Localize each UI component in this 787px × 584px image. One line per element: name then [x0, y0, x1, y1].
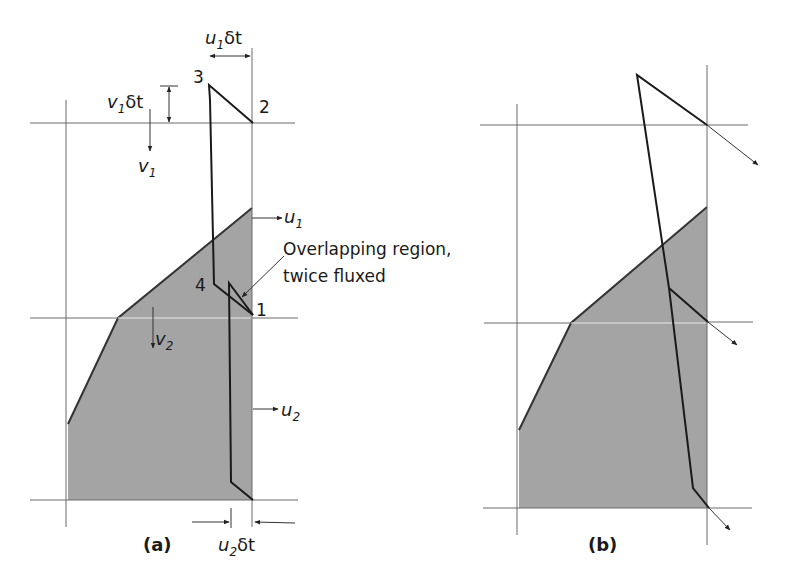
velocity-arrow-mid-b: [708, 322, 737, 345]
u2dt-label: u2δt: [218, 534, 255, 559]
u1-label: u1: [284, 206, 303, 231]
velocity-arrow-top-b: [707, 125, 758, 165]
velocity-arrow-bottom-b: [709, 508, 730, 530]
figure-canvas: 3 2 4 1 u1δt v1δt v1 u1 v2 u2 u2δt: [0, 0, 787, 584]
overlap-annotation-line1: Overlapping region,: [283, 239, 451, 259]
u2-label: u2: [281, 399, 300, 424]
panel-caption-b: (b): [588, 534, 617, 555]
panel-caption-a: (a): [143, 534, 172, 555]
panel-a: 3 2 4 1 u1δt v1δt v1 u1 v2 u2 u2δt: [30, 27, 451, 559]
v1dt-label: v1δt: [107, 91, 143, 116]
panel-b: (b): [480, 65, 758, 555]
v1-label: v1: [138, 155, 156, 180]
vertex-label-2: 2: [259, 97, 270, 117]
vertex-label-3: 3: [193, 67, 204, 87]
u2dt-arrow-right: [255, 522, 295, 523]
u1dt-label: u1δt: [205, 27, 242, 52]
overlap-annotation-line2: twice fluxed: [283, 266, 386, 286]
vertex-label-1: 1: [256, 300, 267, 320]
vertex-label-4: 4: [195, 275, 206, 295]
shaded-region-b: [519, 207, 707, 508]
shaded-region-a: [68, 208, 252, 500]
